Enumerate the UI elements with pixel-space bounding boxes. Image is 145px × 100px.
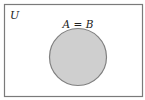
set-circle-a-equals-b [50,29,107,86]
set-label: A = B [62,18,94,30]
universe-label: U [10,9,20,22]
venn-diagram: U A = B [0,0,145,100]
